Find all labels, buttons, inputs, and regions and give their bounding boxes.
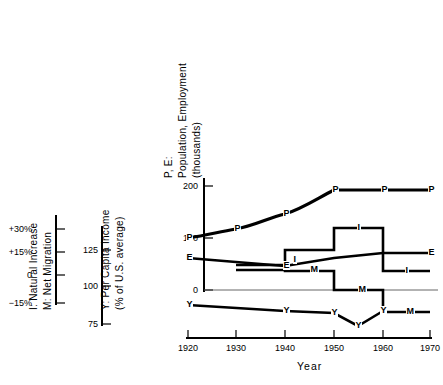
- point-label-p-1970: P: [428, 185, 435, 194]
- series-p-line: [188, 190, 430, 238]
- point-label-y-1930: Y: [186, 300, 193, 309]
- x-axis-title: Year: [297, 360, 322, 372]
- point-label-e-1920: E: [186, 253, 193, 262]
- point-label-p-1950: P: [332, 185, 339, 194]
- x-tick-label-1930: 1930: [216, 343, 256, 353]
- im-tick-label-1: +15%: [6, 247, 32, 257]
- point-label-m-1965: M: [406, 307, 415, 316]
- figure-container: I: Natural Increase M: Net Migration +30…: [0, 0, 443, 385]
- point-label-m-1945: M: [310, 265, 319, 274]
- x-tick-label-1950: 1950: [314, 343, 354, 353]
- x-tick-label-1970: 1970: [410, 343, 443, 353]
- x-tick-label-1920: 1920: [168, 343, 208, 353]
- y-tick-label-0: 125: [72, 245, 98, 255]
- series-e-line: [188, 253, 430, 266]
- point-label-i-1965: I: [405, 266, 409, 275]
- point-label-i-1955: I: [357, 223, 361, 232]
- im-tick-label-2: 0: [6, 270, 32, 280]
- point-label-e-1970: E: [428, 248, 435, 257]
- point-label-p-1930: P: [234, 224, 241, 233]
- pe-axis-title-line2: Population, Employment: [177, 63, 188, 178]
- point-label-m-1955: M: [358, 285, 367, 294]
- point-label-p-1940: P: [283, 209, 290, 218]
- point-label-y-1965: Y: [355, 321, 362, 330]
- pe-tick-label-200: 200: [170, 181, 198, 191]
- pe-tick-label-0: 0: [170, 285, 198, 295]
- x-tick-label-1940: 1940: [265, 343, 305, 353]
- x-tick-label-1960: 1960: [363, 343, 403, 353]
- point-label-p-1920: P: [186, 233, 193, 242]
- im-tick-label-0: +30%: [6, 224, 32, 234]
- point-label-e-1940: E: [283, 261, 290, 270]
- point-label-y-1950: Y: [283, 306, 290, 315]
- pe-tick-label-100: 100: [170, 233, 198, 243]
- y-tick-label-2: 75: [72, 319, 98, 329]
- series-m-step: [236, 270, 430, 312]
- point-label-p-1960: P: [381, 185, 388, 194]
- y-tick-label-1: 100: [72, 281, 98, 291]
- im-tick-label-3: −15%: [4, 298, 32, 308]
- series-i-step: [236, 228, 430, 271]
- point-label-y-1960: Y: [331, 308, 338, 317]
- point-label-i-1942: I: [293, 255, 297, 264]
- point-label-y-1970: Y: [380, 306, 387, 315]
